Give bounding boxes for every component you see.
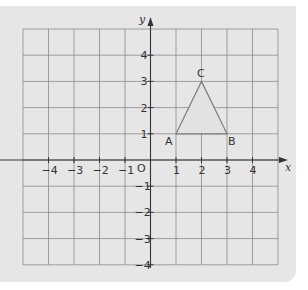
vertex-label-b: B bbox=[228, 135, 236, 148]
x-tick-label: 2 bbox=[199, 164, 206, 177]
x-tick-label: −2 bbox=[93, 164, 109, 177]
y-axis-label: y bbox=[138, 13, 146, 26]
x-tick-label: 3 bbox=[224, 164, 231, 177]
x-tick-label: −3 bbox=[67, 164, 83, 177]
coordinate-grid: x y O −4−3−2−11234 4321−1−2−3−4 A B C bbox=[0, 0, 308, 290]
y-axis-arrow-icon bbox=[148, 17, 154, 26]
y-tick-label: −1 bbox=[135, 180, 151, 193]
y-tick-label: −3 bbox=[135, 233, 151, 246]
x-tick-label: −1 bbox=[118, 164, 134, 177]
y-tick-label: −2 bbox=[135, 206, 151, 219]
x-tick-label: −4 bbox=[42, 164, 58, 177]
x-tick-labels: −4−3−2−11234 bbox=[42, 164, 257, 177]
x-tick-label: 1 bbox=[173, 164, 180, 177]
y-tick-label: 4 bbox=[141, 49, 148, 62]
y-tick-label: 1 bbox=[141, 128, 148, 141]
origin-label: O bbox=[137, 162, 146, 175]
vertex-label-a: A bbox=[165, 135, 173, 148]
y-tick-label: 3 bbox=[141, 75, 148, 88]
x-tick-label: 4 bbox=[250, 164, 257, 177]
x-axis-label: x bbox=[285, 161, 292, 174]
y-tick-label: −4 bbox=[135, 259, 151, 272]
vertex-label-c: C bbox=[197, 67, 205, 80]
y-tick-label: 2 bbox=[141, 102, 148, 115]
